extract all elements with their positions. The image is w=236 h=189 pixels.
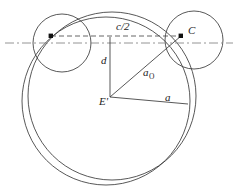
point-marker-left	[49, 34, 53, 38]
geometric-diagram-figure: c/2 C d a O E' a	[0, 0, 236, 189]
geometry-canvas: c/2 C d a O E' a	[0, 0, 236, 189]
small-circle-right	[165, 11, 223, 69]
point-marker-c	[179, 34, 183, 38]
label-distance-d: d	[101, 54, 107, 66]
label-radius-a-o-subscript: O	[149, 72, 155, 81]
radius-a-line	[110, 97, 188, 104]
label-radius-a: a	[165, 91, 171, 103]
label-chord-half: c/2	[116, 20, 130, 32]
label-center-e-prime: E'	[98, 95, 109, 107]
label-point-c: C	[188, 24, 196, 36]
